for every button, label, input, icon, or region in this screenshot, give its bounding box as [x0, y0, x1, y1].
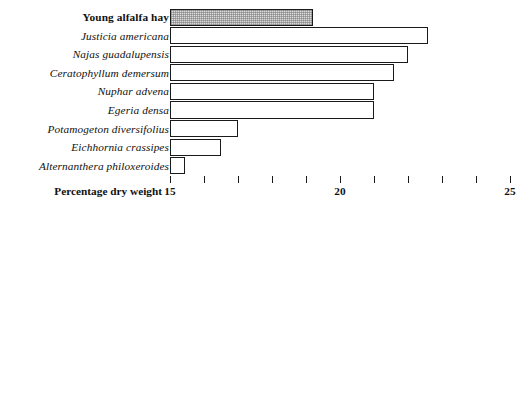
category-label: Ceratophyllum demersum: [50, 64, 169, 83]
category-label: Eichhornia crassipes: [71, 138, 169, 157]
axis-tick-label: 15: [164, 185, 175, 197]
bar-track: [170, 27, 510, 46]
bar: [170, 27, 428, 44]
bar-row: Ceratophyllum demersum: [0, 64, 530, 83]
bar-row: Young alfalfa hay: [0, 8, 530, 27]
dry-weight-axis: 152025Percentage dry weight: [0, 176, 530, 208]
axis-title: Percentage dry weight: [54, 185, 162, 197]
category-label: Justicia americana: [81, 27, 169, 46]
bar-track: [170, 64, 510, 83]
axis-tick: [408, 176, 409, 183]
axis-tick: [374, 176, 375, 183]
bar-highlighted: [170, 9, 313, 26]
bar-row: Egeria densa: [0, 101, 530, 120]
category-label: Potamogeton diversifolius: [48, 120, 169, 139]
bar: [170, 46, 408, 63]
bar-track: [170, 138, 510, 157]
category-label: Egeria densa: [108, 101, 169, 120]
category-label: Young alfalfa hay: [83, 8, 169, 27]
bar-track: [170, 45, 510, 64]
axis-tick-label: 25: [504, 185, 515, 197]
bar: [170, 83, 374, 100]
bar: [170, 157, 185, 174]
bar: [170, 101, 374, 118]
axis-tick: [510, 176, 511, 183]
dry-weight-plot-area: Young alfalfa hayJusticia americanaNajas…: [0, 8, 530, 175]
bar-track: [170, 120, 510, 139]
bar: [170, 120, 238, 137]
axis-tick: [170, 176, 171, 183]
bar-row: Potamogeton diversifolius: [0, 120, 530, 139]
bar-track: [170, 8, 510, 27]
axis-tick: [238, 176, 239, 183]
axis-tick: [476, 176, 477, 183]
axis-tick: [340, 176, 341, 183]
axis-tick: [272, 176, 273, 183]
bar-row: Alternanthera philoxeroides: [0, 157, 530, 176]
bar-row: Justicia americana: [0, 27, 530, 46]
bar-row: Eichhornia crassipes: [0, 138, 530, 157]
bar-row: Nuphar advena: [0, 82, 530, 101]
bar-track: [170, 82, 510, 101]
axis-tick: [442, 176, 443, 183]
dry-weight-chart: Young alfalfa hayJusticia americanaNajas…: [0, 0, 530, 205]
category-label: Nuphar advena: [98, 82, 169, 101]
bar: [170, 64, 394, 81]
axis-tick-label: 20: [334, 185, 345, 197]
category-label: Najas guadalupensis: [73, 45, 169, 64]
category-label: Alternanthera philoxeroides: [39, 157, 169, 176]
bar: [170, 139, 221, 156]
axis-tick: [306, 176, 307, 183]
bar-track: [170, 157, 510, 176]
fresh-weight-chart: Young alfalfa hayJusticia americanaNupha…: [0, 205, 530, 410]
bar-track: [170, 101, 510, 120]
bar-row: Najas guadalupensis: [0, 45, 530, 64]
axis-tick: [204, 176, 205, 183]
